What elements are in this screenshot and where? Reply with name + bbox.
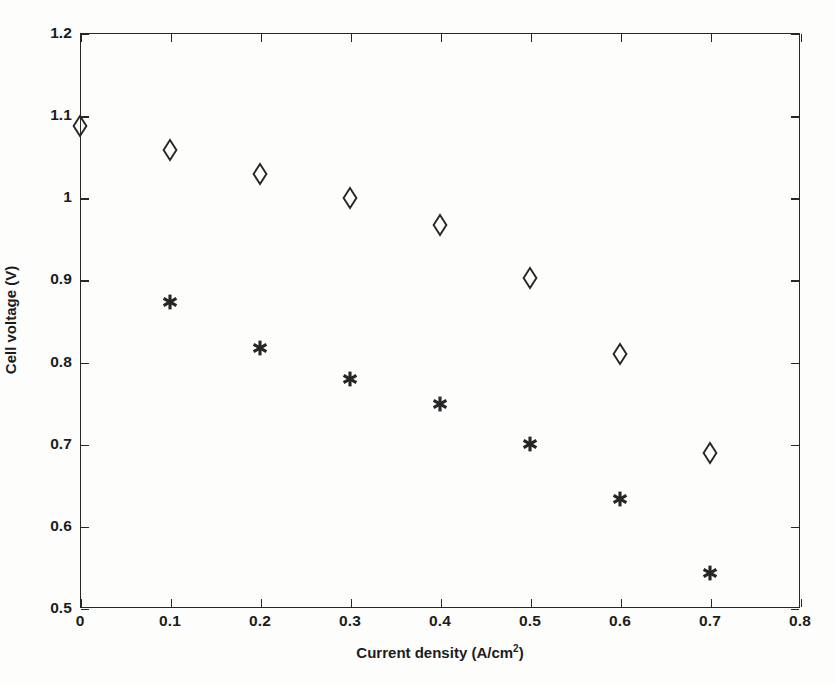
x-axis-tick-label: 0.5 (519, 612, 541, 630)
y-axis-tick (81, 363, 89, 364)
data-point-open-diamond[interactable] (340, 186, 360, 210)
data-point-open-diamond[interactable] (70, 114, 90, 138)
y-axis-title: Cell voltage (V) (2, 266, 19, 374)
y-axis-tick (81, 609, 89, 610)
data-point-open-diamond[interactable] (700, 441, 720, 465)
x-axis-title: Current density (A/cm2) (356, 643, 523, 661)
x-axis-tick (261, 599, 262, 607)
y-axis-tick-label: 1.2 (50, 24, 72, 42)
x-axis-tick (531, 599, 532, 607)
x-axis-tick (711, 34, 712, 42)
x-axis-tick (621, 34, 622, 42)
data-point-asterisk[interactable] (520, 434, 540, 454)
y-axis-tick (791, 445, 799, 446)
figure-canvas: Cell voltage (V) Current density (A/cm2)… (0, 0, 835, 683)
y-axis-tick (81, 527, 89, 528)
x-axis-tick (351, 599, 352, 607)
data-point-open-diamond[interactable] (430, 213, 450, 237)
x-axis-tick (531, 34, 532, 42)
y-axis-tick (81, 280, 89, 281)
y-axis-tick (791, 527, 799, 528)
x-axis-tick-label: 0.4 (429, 612, 451, 630)
y-axis-tick-label: 0.8 (50, 353, 72, 371)
data-point-open-diamond[interactable] (250, 162, 270, 186)
data-point-asterisk[interactable] (250, 338, 270, 358)
x-axis-title-tail: ) (519, 644, 524, 661)
data-point-asterisk[interactable] (340, 369, 360, 389)
y-axis-tick (81, 445, 89, 446)
x-axis-tick (81, 599, 82, 607)
y-axis-tick-label: 1 (63, 188, 72, 206)
x-axis-title-text: Current density (A/cm (356, 644, 513, 661)
x-axis-tick (441, 34, 442, 42)
x-axis-tick (261, 34, 262, 42)
x-axis-tick-label: 0.3 (339, 612, 361, 630)
y-axis-tick (791, 280, 799, 281)
data-point-asterisk[interactable] (700, 563, 720, 583)
x-axis-tick-label: 0.2 (249, 612, 271, 630)
x-axis-tick (441, 599, 442, 607)
data-point-open-diamond[interactable] (160, 138, 180, 162)
x-axis-tick (621, 599, 622, 607)
x-axis-tick (171, 599, 172, 607)
y-axis-tick-label: 1.1 (50, 106, 72, 124)
x-axis-tick (351, 34, 352, 42)
y-axis-tick-label: 0.7 (50, 435, 72, 453)
x-axis-tick (171, 34, 172, 42)
y-axis-tick-label: 0.6 (50, 517, 72, 535)
x-axis-tick (801, 34, 802, 42)
x-axis-tick (711, 599, 712, 607)
x-axis-tick-label: 0.1 (159, 612, 181, 630)
y-axis-tick (791, 116, 799, 117)
data-point-asterisk[interactable] (610, 489, 630, 509)
y-axis-tick (791, 198, 799, 199)
data-point-asterisk[interactable] (160, 292, 180, 312)
y-axis-tick-label: 0.9 (50, 270, 72, 288)
y-axis-tick-label: 0.5 (50, 599, 72, 617)
y-axis-tick (791, 34, 799, 35)
data-point-open-diamond[interactable] (610, 342, 630, 366)
data-point-asterisk[interactable] (430, 394, 450, 414)
y-axis-tick (791, 363, 799, 364)
data-point-open-diamond[interactable] (520, 266, 540, 290)
plot-area (80, 33, 800, 608)
x-axis-tick-label: 0.6 (609, 612, 631, 630)
x-axis-tick-label: 0.7 (699, 612, 721, 630)
y-axis-tick (791, 609, 799, 610)
x-axis-tick-label: 0 (76, 612, 85, 630)
y-axis-tick (81, 198, 89, 199)
x-axis-tick (801, 599, 802, 607)
y-axis-tick (81, 34, 89, 35)
x-axis-tick-label: 0.8 (789, 612, 811, 630)
